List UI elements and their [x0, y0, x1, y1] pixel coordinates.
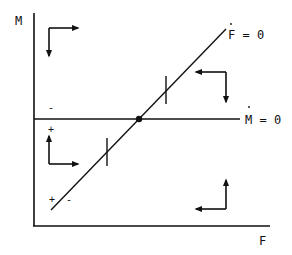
- arrow-pair-top-right: [196, 72, 226, 102]
- x-axis-label: F: [259, 234, 266, 248]
- m-dot-zero-label: M = 0: [245, 113, 281, 127]
- f-dot-zero-label: F = 0: [228, 28, 264, 42]
- sign-right-of-f-line: -: [66, 194, 72, 205]
- sign-below-m-line: +: [48, 124, 54, 135]
- arrow-pair-top-left: [49, 28, 78, 56]
- f-dot-marker: [230, 23, 232, 25]
- sign-left-of-f-line: +: [49, 194, 55, 205]
- equilibrium-point: [136, 116, 142, 122]
- y-axis-label: M: [15, 14, 22, 28]
- m-dot-marker: [248, 106, 250, 108]
- phase-diagram: M F M = 0 F = 0 - + + -: [0, 0, 292, 255]
- sign-above-m-line: -: [48, 102, 54, 113]
- arrow-pair-bottom-right: [196, 180, 226, 209]
- arrow-pair-bottom-left: [49, 136, 78, 164]
